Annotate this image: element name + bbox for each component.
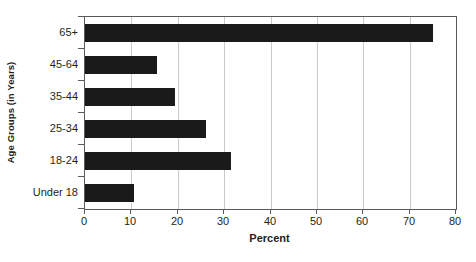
x-tick-label: 50 xyxy=(310,215,322,227)
y-tick-label: 45-64 xyxy=(50,57,78,71)
x-tick-mark xyxy=(84,209,85,214)
y-tick-label: 25-34 xyxy=(50,121,78,135)
gridline xyxy=(131,17,132,209)
gridline xyxy=(363,17,364,209)
bar xyxy=(85,120,206,138)
bar xyxy=(85,184,134,202)
x-axis-title: Percent xyxy=(84,232,455,244)
y-tick-label: 65+ xyxy=(59,25,78,39)
y-tick-label: 18-24 xyxy=(50,153,78,167)
y-tick-label: 35-44 xyxy=(50,89,78,103)
bar xyxy=(85,24,433,42)
plot-area xyxy=(84,16,457,210)
bar xyxy=(85,152,231,170)
gridline xyxy=(224,17,225,209)
x-tick-label: 40 xyxy=(264,215,276,227)
x-tick-label: 70 xyxy=(403,215,415,227)
y-axis-title-label: Age Groups (in Years) xyxy=(6,61,17,163)
gridline xyxy=(271,17,272,209)
y-axis-title: Age Groups (in Years) xyxy=(0,16,22,208)
x-tick-mark xyxy=(316,209,317,214)
x-tick-mark xyxy=(223,209,224,214)
x-tick-label: 0 xyxy=(81,215,87,227)
y-tick-label-group: Under 1818-2425-3435-4445-6465+ xyxy=(22,16,82,208)
gridline xyxy=(317,17,318,209)
bar-chart: Age Groups (in Years) Under 1818-2425-34… xyxy=(0,0,476,262)
bar xyxy=(85,88,175,106)
x-tick-label: 20 xyxy=(171,215,183,227)
x-tick-label: 10 xyxy=(124,215,136,227)
x-tick-mark xyxy=(455,209,456,214)
x-tick-label: 80 xyxy=(449,215,461,227)
x-tick-label: 30 xyxy=(217,215,229,227)
x-tick-mark xyxy=(270,209,271,214)
y-tick-label: Under 18 xyxy=(33,185,78,199)
x-tick-mark xyxy=(362,209,363,214)
x-tick-mark xyxy=(177,209,178,214)
gridline xyxy=(178,17,179,209)
bar xyxy=(85,56,157,74)
x-tick-label: 60 xyxy=(356,215,368,227)
x-tick-mark xyxy=(409,209,410,214)
x-tick-mark xyxy=(130,209,131,214)
gridline xyxy=(410,17,411,209)
